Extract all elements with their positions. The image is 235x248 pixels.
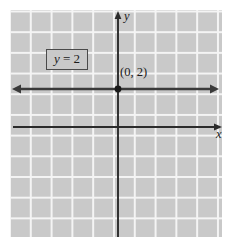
line-arrow-left-icon xyxy=(12,85,21,94)
x-axis-label: x xyxy=(216,127,222,142)
y-axis-label: y xyxy=(124,9,130,24)
point-marker-0-2 xyxy=(115,86,122,93)
y-axis-arrow-up-icon xyxy=(115,11,122,19)
graph-figure: y = 2 (0, 2) y x xyxy=(0,0,235,248)
y-axis xyxy=(115,11,122,237)
equation-remainder: = 2 xyxy=(60,51,80,66)
line-arrow-right-icon xyxy=(210,85,219,94)
point-label-0-2: (0, 2) xyxy=(120,65,147,80)
plot-svg xyxy=(0,0,235,248)
equation-label-box: y = 2 xyxy=(46,49,88,70)
